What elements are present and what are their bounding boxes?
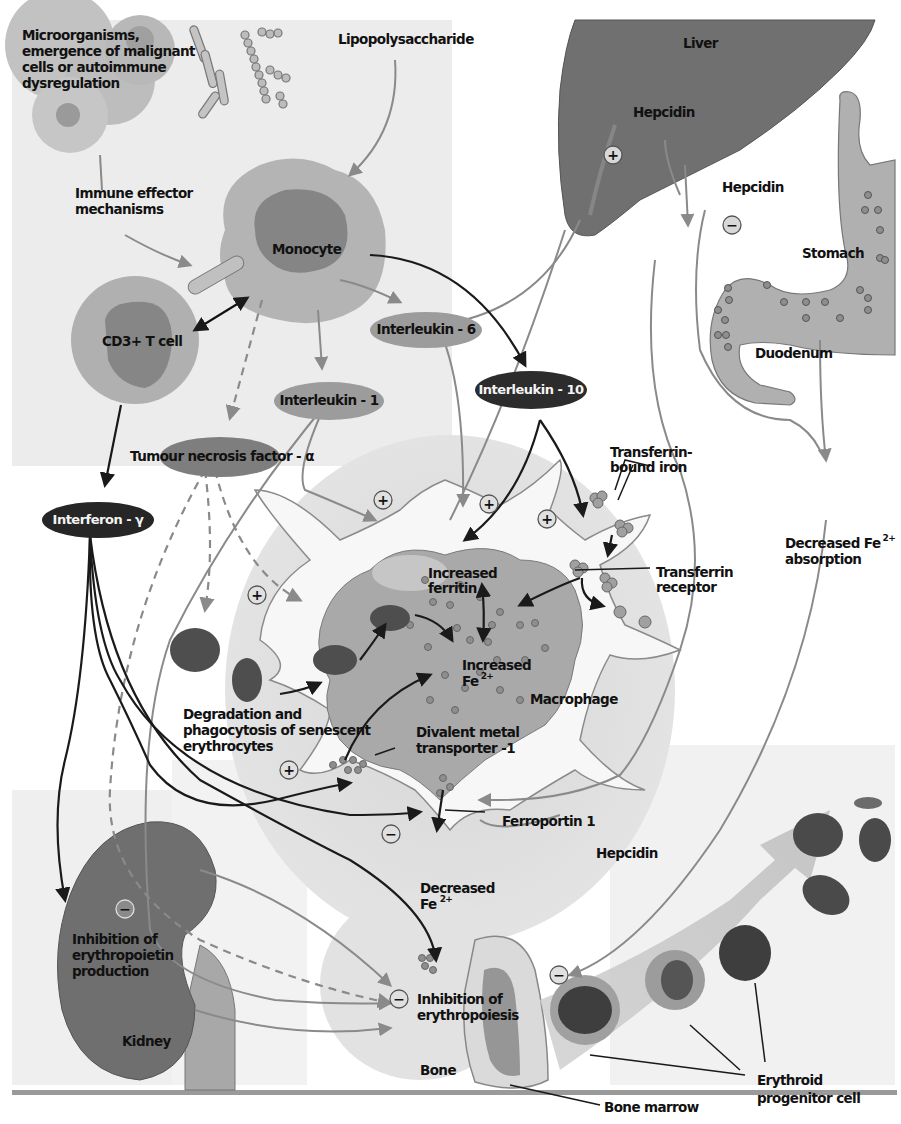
label-bone: Bone — [420, 1062, 456, 1078]
minus-icon: − — [390, 990, 408, 1008]
label-interleukin-1: Interleukin - 1 — [280, 392, 379, 408]
svg-text:−: − — [393, 991, 405, 1007]
label-hepcidin-macrophage: Hepcidin — [596, 845, 658, 861]
svg-text:+: + — [283, 762, 295, 778]
label-macrophage: Macrophage — [530, 691, 618, 707]
svg-text:−: − — [553, 967, 565, 983]
minus-icon: − — [550, 966, 568, 984]
plus-icon: + — [604, 146, 622, 164]
label-monocyte: Monocyte — [272, 241, 342, 257]
label-transferrin-receptor: Transferrinreceptor — [656, 564, 733, 595]
label-interleukin-10: Interleukin - 10 — [479, 382, 584, 397]
label-stomach: Stomach — [802, 245, 864, 261]
label-kidney: Kidney — [122, 1033, 172, 1049]
svg-text:−: − — [119, 901, 131, 917]
plus-icon: + — [538, 510, 556, 528]
label-duodenum: Duodenum — [755, 345, 832, 361]
anemia-of-inflammation-diagram: + − + + + + + − − − − Microorganisms,eme… — [0, 0, 901, 1124]
svg-text:−: − — [385, 826, 397, 842]
label-bone-marrow: Bone marrow — [604, 1099, 699, 1115]
label-transferrin-bound-iron: Transferrin-bound iron — [610, 444, 692, 475]
label-liver: Liver — [683, 35, 719, 51]
label-dmt1: Divalent metaltransporter -1 — [416, 724, 519, 756]
svg-text:+: + — [607, 147, 619, 163]
label-decreased-fe-absorption: Decreased Fe2+absorption — [785, 533, 895, 567]
svg-text:+: + — [541, 511, 553, 527]
minus-icon: − — [116, 900, 134, 918]
minus-icon: − — [723, 216, 741, 234]
svg-text:−: − — [726, 217, 738, 233]
plus-icon: + — [374, 491, 392, 509]
label-lipopolysaccharide: Lipopolysaccharide — [338, 31, 474, 47]
label-interleukin-6: Interleukin - 6 — [377, 321, 476, 337]
svg-text:+: + — [251, 587, 263, 603]
plus-icon: + — [248, 586, 266, 604]
label-ferroportin: Ferroportin 1 — [502, 813, 595, 829]
label-tnf-alpha: Tumour necrosis factor - α — [130, 448, 314, 464]
minus-icon: − — [382, 825, 400, 843]
label-hepcidin-right: Hepcidin — [722, 179, 784, 195]
plus-icon: + — [280, 761, 298, 779]
label-hepcidin-liver: Hepcidin — [633, 104, 695, 120]
svg-text:+: + — [483, 496, 495, 512]
plus-icon: + — [480, 495, 498, 513]
label-interferon-gamma: Interferon - γ — [53, 512, 145, 527]
liver — [558, 20, 875, 236]
label-cd3-t-cell: CD3+ T cell — [102, 333, 182, 349]
svg-text:+: + — [377, 492, 389, 508]
